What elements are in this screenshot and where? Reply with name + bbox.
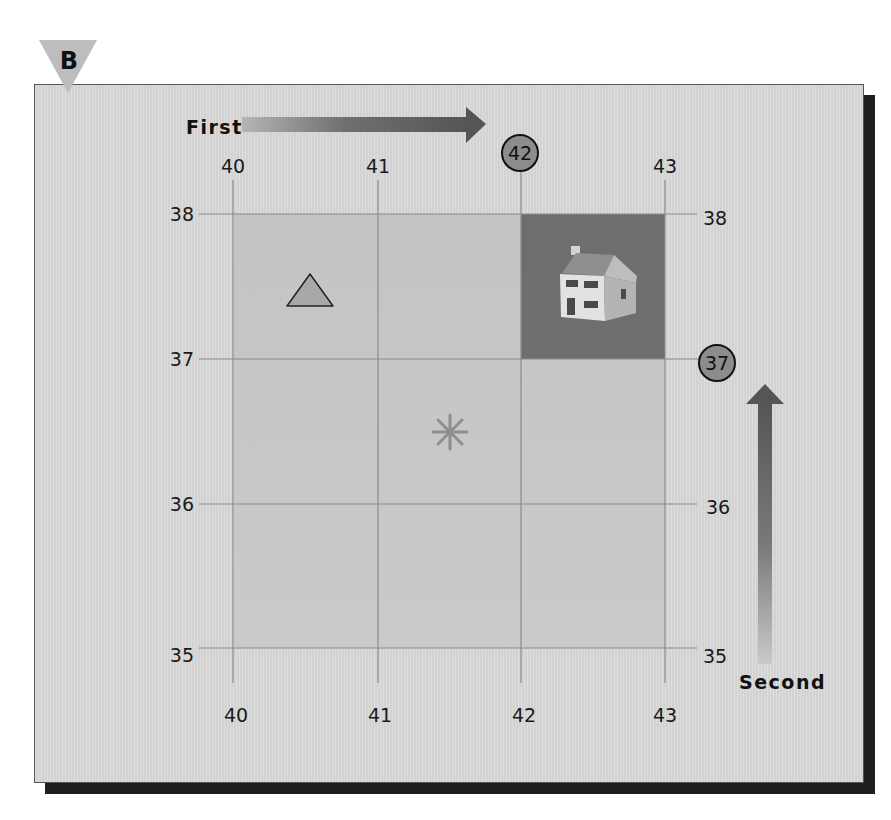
y-tick-right-35: 35 [703,645,727,667]
y-tick-right-36: 36 [706,496,730,518]
circled-y-37: 37 [699,345,735,381]
second-axis-arrow: Second [739,384,826,693]
first-arrow-shaft [242,117,468,132]
x-tick-bottom-41: 41 [368,704,392,726]
x-tick-top-40: 40 [221,155,245,177]
circled-x-value: 42 [508,142,532,164]
second-axis-label: Second [739,671,826,693]
x-tick-bottom-42: 42 [512,704,536,726]
x-tick-top-43: 43 [653,155,677,177]
x-tick-bottom-43: 43 [653,704,677,726]
y-tick-left-38: 38 [170,203,194,225]
first-axis-label: First [186,116,243,138]
y-tick-left-37: 37 [170,348,194,370]
circled-x-42: 42 [502,135,538,171]
section-badge: B [39,40,97,93]
up-arrow-icon [746,384,784,404]
y-tick-left-35: 35 [170,644,194,666]
first-axis-arrow: First [186,107,486,143]
coordinate-grid-figure: B 40 41 43 40 41 42 43 38 37 36 35 38 36… [0,0,891,820]
asterisk-marker-icon [433,415,467,449]
badge-letter: B [60,47,78,75]
y-tick-left-36: 36 [170,493,194,515]
second-arrow-shaft [758,402,772,664]
x-tick-bottom-40: 40 [224,704,248,726]
y-tick-right-38: 38 [703,207,727,229]
right-arrow-icon [466,107,486,143]
circled-y-value: 37 [705,352,729,374]
x-tick-top-41: 41 [366,155,390,177]
